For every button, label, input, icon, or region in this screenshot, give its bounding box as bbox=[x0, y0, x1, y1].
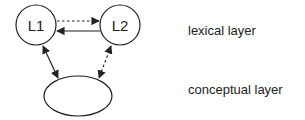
diagram-canvas: L1 L2 bbox=[0, 0, 305, 120]
conceptual-layer-label: conceptual layer bbox=[188, 82, 283, 97]
l2-label: L2 bbox=[112, 17, 129, 34]
edge-l1-concept-solid bbox=[43, 46, 58, 78]
l1-label: L1 bbox=[28, 17, 45, 34]
node-l1: L1 bbox=[16, 5, 56, 45]
concept-ellipse bbox=[44, 76, 112, 116]
lexical-layer-label: lexical layer bbox=[188, 23, 256, 38]
edge-l2-concept-dotted bbox=[99, 46, 111, 78]
node-l2: L2 bbox=[100, 5, 140, 45]
